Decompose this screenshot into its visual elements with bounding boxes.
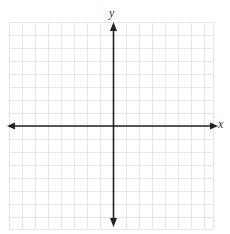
y-axis [110, 22, 117, 227]
x-axis-label: x [218, 118, 223, 130]
x-axis-left-arrow-icon [7, 123, 15, 130]
y-axis-down-arrow-icon [110, 218, 117, 227]
y-axis-label: y [109, 7, 114, 19]
coordinate-plane: y x [0, 0, 230, 234]
grid-svg [0, 0, 230, 234]
y-axis-up-arrow-icon [110, 22, 117, 31]
x-axis [7, 123, 218, 130]
